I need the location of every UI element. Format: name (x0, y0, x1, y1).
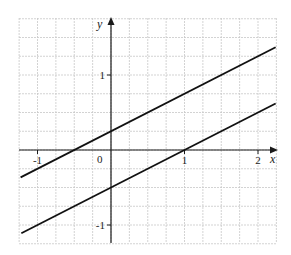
x-tick-label: -1 (33, 154, 42, 166)
x-tick-label: 2 (255, 154, 261, 166)
y-tick-label: 1 (100, 69, 106, 81)
origin-label: 0 (97, 153, 103, 165)
y-tick-label: -1 (96, 219, 105, 231)
x-tick-label: 1 (182, 154, 188, 166)
y-axis-arrow-icon (108, 17, 115, 25)
y-axis-label: y (96, 17, 103, 31)
x-axis-label: x (269, 152, 276, 166)
graph: x y 0 -1121-1 (0, 0, 291, 255)
axes (19, 17, 278, 243)
grid (19, 18, 276, 244)
